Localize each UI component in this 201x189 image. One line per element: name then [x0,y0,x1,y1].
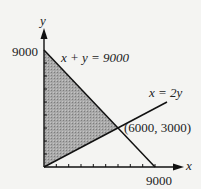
x-axis-label: x [186,159,192,172]
y-axis-arrow-icon [41,28,48,39]
y-axis-label: y [40,14,46,27]
linear-programming-diagram: y 9000 x + y = 9000 x = 2y (6000, 3000) … [0,0,201,189]
x-tick-label-9000: 9000 [146,174,172,187]
line-label-x-eq-2y: x = 2y [149,86,182,99]
shaded-feasible-region [44,50,118,167]
line-label-x-plus-y: x + y = 9000 [61,51,129,64]
intersection-point-label: (6000, 3000) [124,121,191,134]
x-axis-arrow-icon [173,164,184,171]
y-tick-label-9000: 9000 [12,45,38,58]
